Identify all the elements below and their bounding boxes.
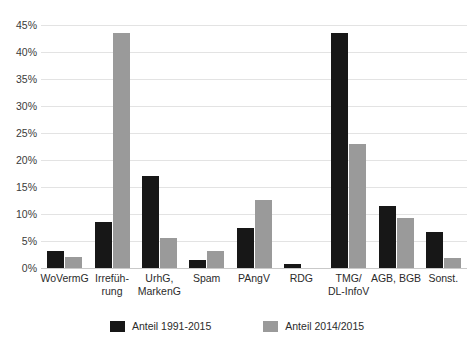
bar [95, 222, 112, 268]
bar [444, 258, 461, 268]
bar [349, 144, 366, 268]
bar [189, 260, 206, 268]
y-axis-tick-label: 35% [3, 74, 37, 85]
legend-swatch-icon [110, 321, 125, 332]
legend-item[interactable]: Anteil 2014/2015 [263, 320, 364, 332]
bar [47, 251, 64, 268]
y-axis-tick-label: 20% [3, 155, 37, 166]
y-axis-tick-label: 40% [3, 47, 37, 58]
legend-label: Anteil 1991-2015 [132, 320, 211, 332]
bar [331, 33, 348, 268]
y-axis-tick-label: 25% [3, 128, 37, 139]
legend-swatch-icon [263, 321, 278, 332]
x-axis: WoVermGIrrefüh-rungUrhG,MarkenGSpamPAngV… [41, 272, 467, 312]
y-axis-tick-label: 10% [3, 209, 37, 220]
y-axis-tick-label: 45% [3, 20, 37, 31]
y-axis-tick-label: 0% [3, 263, 37, 274]
bar [237, 228, 254, 268]
bar [160, 238, 177, 268]
x-axis-tick-label: Sonst. [413, 272, 474, 285]
y-axis-tick-label: 15% [3, 182, 37, 193]
y-axis: 0%5%10%15%20%25%30%35%40%45% [0, 0, 37, 348]
bar [207, 251, 224, 268]
bars-layer [41, 25, 467, 268]
bar [65, 257, 82, 268]
bar [284, 264, 301, 268]
bar [379, 206, 396, 268]
chart-title: Anteile der Verstöße 1991-2015 und 2014/… [6, 0, 466, 2]
bar [113, 33, 130, 268]
x-axis-tick-line: MarkenG [129, 285, 190, 298]
legend-label: Anteil 2014/2015 [285, 320, 364, 332]
bar [397, 218, 414, 268]
bar [142, 176, 159, 268]
bar [426, 232, 443, 268]
y-axis-tick-label: 30% [3, 101, 37, 112]
y-axis-tick-label: 5% [3, 236, 37, 247]
bar [255, 200, 272, 268]
x-axis-tick-line: DL-InfoV [318, 285, 379, 298]
chart-legend: Anteil 1991-2015Anteil 2014/2015 [0, 320, 474, 332]
legend-item[interactable]: Anteil 1991-2015 [110, 320, 211, 332]
axis-baseline [41, 268, 467, 269]
x-axis-tick-line: Sonst. [413, 272, 474, 285]
